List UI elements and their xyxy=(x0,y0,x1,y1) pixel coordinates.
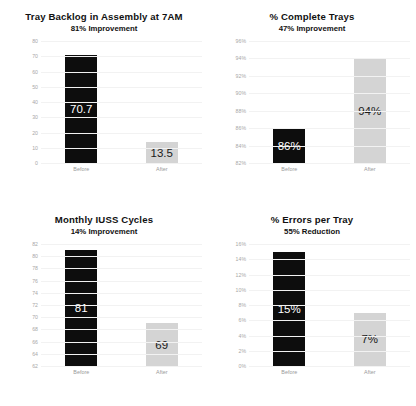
y-axis-tick-label: 90% xyxy=(236,90,246,96)
gridline xyxy=(41,41,202,42)
y-axis-tick-label: 64 xyxy=(32,351,38,357)
gridline xyxy=(249,244,410,245)
gridline xyxy=(249,58,410,59)
gridline xyxy=(41,244,202,245)
y-axis: 96%94%92%90%88%86%84%82% xyxy=(222,41,246,163)
y-axis-tick-label: 12% xyxy=(236,272,246,278)
gridline xyxy=(41,102,202,103)
y-axis-tick-label: 74 xyxy=(32,290,38,296)
gridline xyxy=(41,281,202,282)
gridline xyxy=(249,128,410,129)
y-axis-tick-label: 80 xyxy=(32,38,38,44)
y-axis-tick-label: 10 xyxy=(32,145,38,151)
gridline xyxy=(41,72,202,73)
gridline xyxy=(41,366,202,367)
y-axis-tick-label: 10% xyxy=(236,287,246,293)
x-axis-tick-label: After xyxy=(330,165,411,173)
gridline xyxy=(249,146,410,147)
gridline xyxy=(41,329,202,330)
chart-subtitle: 14% Improvement xyxy=(0,226,208,237)
gridline xyxy=(249,351,410,352)
y-axis-tick-label: 2% xyxy=(239,348,247,354)
plot-wrapper: 8280787674727068666462 8169 BeforeAfter xyxy=(0,244,208,394)
gridline xyxy=(41,87,202,88)
y-axis-tick-label: 94% xyxy=(236,55,246,61)
gridline xyxy=(41,317,202,318)
gridline xyxy=(41,133,202,134)
y-axis-tick-label: 96% xyxy=(236,38,246,44)
x-axis: BeforeAfter xyxy=(249,368,410,380)
x-axis: BeforeAfter xyxy=(249,165,410,177)
plot-area: 15%7% xyxy=(249,244,410,366)
y-axis-tick-label: 6% xyxy=(239,317,247,323)
y-axis-tick-label: 16% xyxy=(236,241,246,247)
y-axis-tick-label: 0% xyxy=(239,363,247,369)
bar-after[interactable]: 13.5 xyxy=(146,142,178,163)
chart-panel-tray-backlog: Tray Backlog in Assembly at 7AM 81% Impr… xyxy=(0,0,208,203)
gridline xyxy=(249,366,410,367)
x-axis-tick-label: Before xyxy=(41,368,122,376)
y-axis-tick-label: 8% xyxy=(239,302,247,308)
bar-before[interactable]: 15% xyxy=(273,252,305,366)
chart-title: % Errors per Tray xyxy=(208,214,416,226)
bar-value-label: 69 xyxy=(155,339,168,351)
gridline xyxy=(249,320,410,321)
bar-value-label: 70.7 xyxy=(70,103,92,115)
y-axis-tick-label: 4% xyxy=(239,333,247,339)
plot-wrapper: 96%94%92%90%88%86%84%82% 86%94% BeforeAf… xyxy=(208,41,416,191)
chart-subtitle: 81% Improvement xyxy=(0,23,208,34)
gridline xyxy=(41,268,202,269)
chart-subtitle: 55% Reduction xyxy=(208,226,416,237)
gridline xyxy=(41,256,202,257)
gridline xyxy=(41,148,202,149)
y-axis-tick-label: 76 xyxy=(32,278,38,284)
gridline xyxy=(249,93,410,94)
chart-header: % Complete Trays 47% Improvement xyxy=(208,11,416,34)
gridline xyxy=(41,56,202,57)
plot-area: 86%94% xyxy=(249,41,410,163)
y-axis-tick-label: 0 xyxy=(35,160,38,166)
y-axis-tick-label: 84% xyxy=(236,143,246,149)
plot-wrapper: 80706050403020100 70.713.5 BeforeAfter xyxy=(0,41,208,191)
gridline xyxy=(41,163,202,164)
y-axis-tick-label: 50 xyxy=(32,84,38,90)
y-axis-tick-label: 72 xyxy=(32,302,38,308)
y-axis-tick-label: 88% xyxy=(236,108,246,114)
y-axis-tick-label: 62 xyxy=(32,363,38,369)
y-axis-tick-label: 80 xyxy=(32,253,38,259)
x-axis-tick-label: After xyxy=(122,165,203,173)
y-axis-tick-label: 82% xyxy=(236,160,246,166)
y-axis-tick-label: 30 xyxy=(32,114,38,120)
y-axis-tick-label: 40 xyxy=(32,99,38,105)
y-axis-tick-label: 60 xyxy=(32,69,38,75)
chart-panel-complete-trays: % Complete Trays 47% Improvement 96%94%9… xyxy=(208,0,416,203)
x-axis-tick-label: Before xyxy=(41,165,122,173)
y-axis-tick-label: 86% xyxy=(236,125,246,131)
y-axis-tick-label: 82 xyxy=(32,241,38,247)
gridline xyxy=(41,305,202,306)
gridline xyxy=(41,342,202,343)
chart-title: Monthly IUSS Cycles xyxy=(0,214,208,226)
y-axis-tick-label: 78 xyxy=(32,265,38,271)
plot-area: 8169 xyxy=(41,244,202,366)
gridline xyxy=(249,290,410,291)
y-axis: 8280787674727068666462 xyxy=(14,244,38,366)
x-axis-tick-label: Before xyxy=(249,368,330,376)
y-axis-tick-label: 14% xyxy=(236,256,246,262)
gridline xyxy=(249,111,410,112)
y-axis-tick-label: 70 xyxy=(32,53,38,59)
gridline xyxy=(41,293,202,294)
y-axis-tick-label: 20 xyxy=(32,130,38,136)
y-axis: 80706050403020100 xyxy=(14,41,38,163)
chart-panel-errors-per-tray: % Errors per Tray 55% Reduction 16%14%12… xyxy=(208,203,416,406)
gridline xyxy=(249,259,410,260)
y-axis-tick-label: 92% xyxy=(236,73,246,79)
bar-value-label: 81 xyxy=(75,302,88,314)
x-axis-tick-label: After xyxy=(330,368,411,376)
chart-title: % Complete Trays xyxy=(208,11,416,23)
plot-wrapper: 16%14%12%10%8%6%4%2%0% 15%7% BeforeAfter xyxy=(208,244,416,394)
x-axis: BeforeAfter xyxy=(41,165,202,177)
chart-header: % Errors per Tray 55% Reduction xyxy=(208,214,416,237)
gridline xyxy=(249,305,410,306)
x-axis-tick-label: After xyxy=(122,368,203,376)
